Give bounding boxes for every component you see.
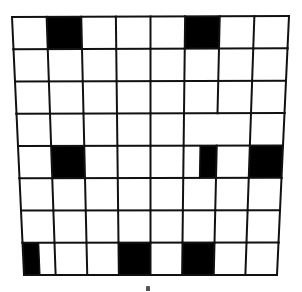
grid-line	[84, 146, 85, 178]
grid-figure	[0, 0, 302, 292]
filled-cell	[47, 17, 82, 49]
grid-line	[248, 178, 249, 210]
grid-line	[84, 114, 85, 146]
grid-diagram	[0, 0, 302, 292]
grid-line	[53, 210, 54, 242]
grid-line	[86, 210, 87, 242]
grid-line	[218, 49, 219, 81]
grid-line	[85, 178, 86, 210]
grid-line	[83, 81, 84, 113]
grid-line	[215, 210, 216, 242]
filled-cell	[119, 243, 151, 275]
filled-cell	[249, 146, 283, 178]
grid-line	[250, 113, 251, 145]
grid-line	[48, 49, 49, 81]
filled-cell	[182, 243, 214, 275]
grid-line	[82, 49, 83, 81]
grid-line	[50, 114, 51, 146]
grid-line	[251, 81, 252, 113]
grid-line	[249, 146, 250, 178]
grid-line	[214, 243, 215, 275]
filled-cell	[185, 16, 220, 48]
grid-line	[218, 81, 219, 113]
filled-cell	[200, 146, 217, 178]
grid-line	[215, 178, 216, 210]
grid-line	[87, 243, 88, 275]
grid-line	[253, 16, 254, 48]
grid-line	[252, 48, 253, 80]
grid-line	[200, 146, 201, 178]
grid-line	[216, 146, 217, 178]
grid-line	[245, 243, 246, 275]
filled-cell	[23, 243, 40, 275]
grid-line	[49, 81, 50, 113]
grid-line	[51, 146, 52, 178]
grid-line	[247, 210, 248, 242]
grid-line	[55, 243, 56, 275]
grid-line	[47, 17, 48, 49]
grid-line	[81, 17, 82, 49]
grid-line	[219, 16, 220, 48]
caption-mark	[146, 286, 150, 291]
grid-line	[52, 178, 53, 210]
filled-cell	[51, 146, 85, 178]
